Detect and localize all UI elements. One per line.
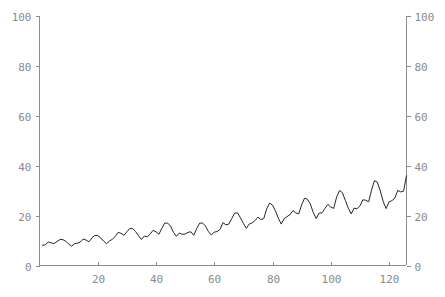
left-tick-label-20: 20 bbox=[18, 211, 31, 224]
left-tick-label-0: 0 bbox=[25, 261, 32, 274]
right-tick-label-60: 60 bbox=[415, 111, 428, 124]
axis-group bbox=[39, 16, 407, 266]
left-tick-label-100: 100 bbox=[12, 11, 32, 24]
right-tick-label-40: 40 bbox=[415, 161, 428, 174]
right-tick-label-0: 0 bbox=[415, 261, 422, 274]
bottom-tick-label-80: 80 bbox=[267, 273, 280, 286]
bottom-tick-label-100: 100 bbox=[322, 273, 342, 286]
left-tick-label-40: 40 bbox=[18, 161, 31, 174]
left-tick-label-60: 60 bbox=[18, 111, 31, 124]
bottom-tick-label-60: 60 bbox=[208, 273, 221, 286]
tick-label-group: 02040608010002040608010020406080100120 bbox=[12, 11, 435, 286]
line-chart-plot: 02040608010002040608010020406080100120 bbox=[0, 0, 445, 297]
bottom-tick-label-40: 40 bbox=[150, 273, 163, 286]
bottom-tick-label-20: 20 bbox=[92, 273, 105, 286]
left-tick-label-80: 80 bbox=[18, 61, 31, 74]
bottom-tick-label-120: 120 bbox=[380, 273, 400, 286]
chart-canvas: 02040608010002040608010020406080100120 bbox=[0, 0, 445, 297]
tick-mark-group bbox=[36, 17, 411, 267]
right-tick-label-100: 100 bbox=[415, 11, 435, 24]
right-tick-label-80: 80 bbox=[415, 61, 428, 74]
data-series-line bbox=[42, 176, 406, 247]
right-tick-label-20: 20 bbox=[415, 211, 428, 224]
